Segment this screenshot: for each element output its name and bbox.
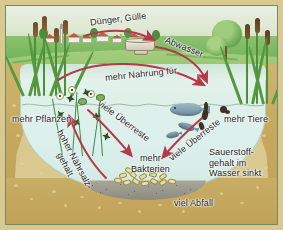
label-oxygen-line1: Sauerstoff-	[209, 147, 254, 157]
drain-pipe-spout	[134, 50, 148, 55]
label-more-plants: mehr Pflanzen	[12, 114, 71, 125]
water-flower	[56, 92, 64, 100]
label-waste: viel Abfall	[174, 198, 213, 209]
drain-pipe-rim	[125, 38, 155, 43]
village-tree	[90, 28, 98, 38]
eutrophication-diagram: Dünger, Gülle Abwasser mehr Nahrung für …	[0, 0, 283, 230]
right-bank-reeds	[238, 18, 278, 104]
label-more-bacteria-line2: Bakterien	[131, 164, 170, 174]
label-oxygen-line2: gehalt im	[209, 158, 246, 168]
label-oxygen-sinks: Sauerstoff- gehalt im Wasser sinkt	[209, 147, 261, 179]
label-more-bacteria-line1: mehr	[140, 153, 161, 163]
village-tree	[124, 28, 132, 38]
lily-pad	[78, 98, 87, 105]
diagram-frame: Dünger, Gülle Abwasser mehr Nahrung für …	[5, 5, 278, 225]
label-oxygen-line3: Wasser sinkt	[209, 168, 261, 178]
label-more-animals: mehr Tiere	[224, 114, 268, 125]
water-flower	[68, 86, 76, 94]
label-more-bacteria: mehr Bakterien	[131, 153, 170, 174]
fish	[170, 103, 202, 116]
